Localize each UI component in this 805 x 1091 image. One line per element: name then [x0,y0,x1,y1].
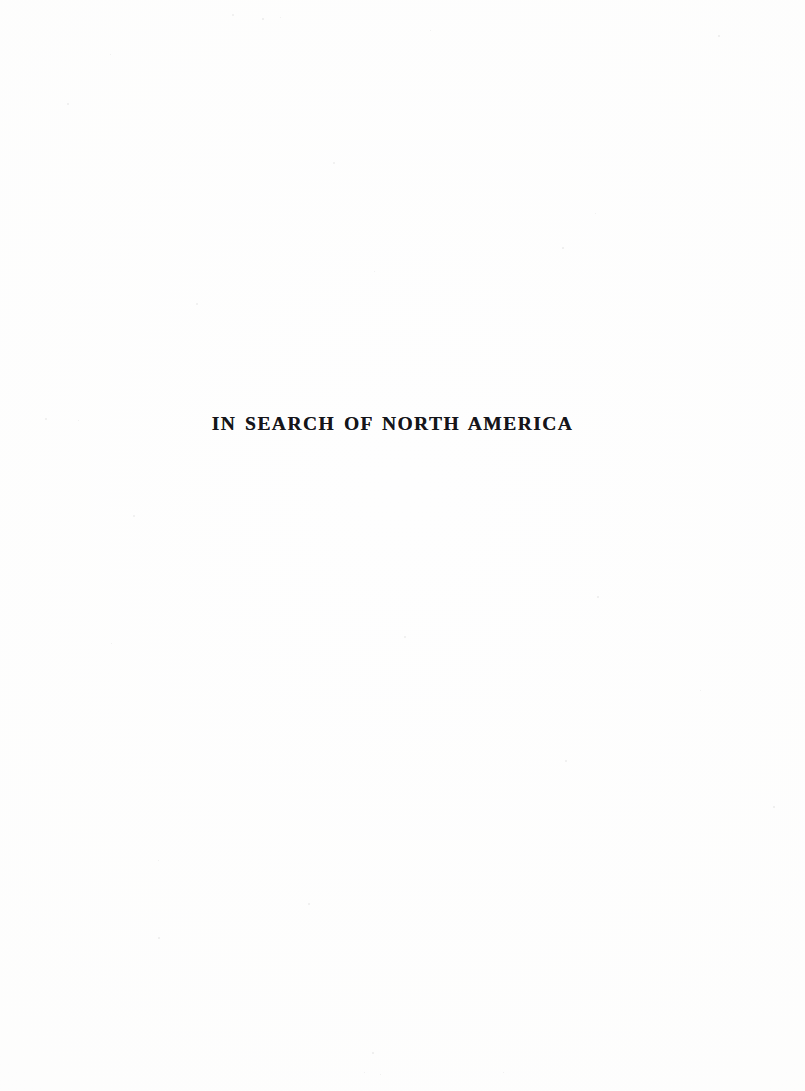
scan-speckle [133,515,135,517]
scan-speckle [364,1072,365,1073]
scan-speckle [158,937,160,939]
scan-speckle [700,690,701,691]
scan-speckle [597,596,599,598]
scan-speckle [718,35,720,37]
scan-speckle [562,247,564,249]
scan-speckle [308,903,310,905]
scan-speckle [111,643,112,644]
scan-speckle [374,271,375,272]
series-title: IN SEARCH OF NORTH AMERICA [212,414,574,434]
scan-speckle [333,162,335,164]
scan-speckle [280,17,281,18]
scan-speckle [404,636,406,638]
scan-speckle [565,760,567,762]
scan-speckle [503,1072,504,1073]
scan-speckle [372,1052,374,1054]
scan-speckle [110,54,111,55]
scan-speckle-layer [0,0,805,1091]
scan-speckle [158,860,159,861]
scan-speckle [262,18,264,20]
scan-speckle [67,103,69,105]
scan-speckle [380,1074,381,1075]
scan-speckle [232,14,234,16]
scan-speckle [430,30,431,31]
scan-speckle [773,806,775,808]
paper-tone-overlay [0,0,805,1091]
half-title-block: IN SEARCH OF NORTH AMERICA [0,414,785,434]
scanned-page: IN SEARCH OF NORTH AMERICA [0,0,805,1091]
scan-speckle [196,303,198,305]
scan-speckle [595,213,596,214]
